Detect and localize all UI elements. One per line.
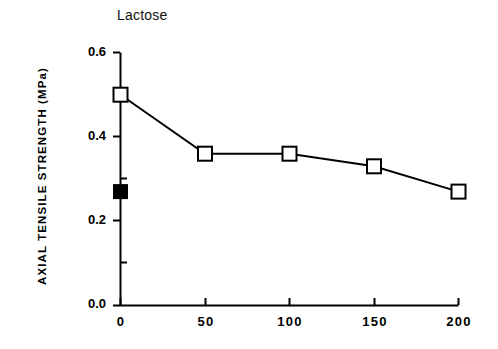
x-tick-label-200: 200 <box>429 314 489 329</box>
chart-figure: Lactose AXIAL TENSILE STRENGTH (MPa) <box>0 0 498 349</box>
data-point-marker <box>283 147 297 161</box>
y-tick-label-0.2: 0.2 <box>62 212 106 227</box>
data-point-marker-filled <box>114 185 127 198</box>
data-point-marker <box>367 159 381 173</box>
x-tick-label-150: 150 <box>345 314 405 329</box>
x-tick-label-100: 100 <box>260 314 320 329</box>
y-tick-label-0.0: 0.0 <box>62 296 106 311</box>
x-axis-ticks <box>121 298 459 305</box>
y-tick-label-0.6: 0.6 <box>62 44 106 59</box>
x-tick-label-50: 50 <box>176 314 236 329</box>
series-line-open-square-series <box>121 95 459 192</box>
data-point-marker <box>114 88 128 102</box>
data-point-marker <box>452 185 466 199</box>
data-point-marker <box>198 147 212 161</box>
axis-group <box>120 53 459 306</box>
x-tick-label-0: 0 <box>91 314 151 329</box>
y-tick-label-0.4: 0.4 <box>62 128 106 143</box>
data-series-group <box>114 88 466 199</box>
